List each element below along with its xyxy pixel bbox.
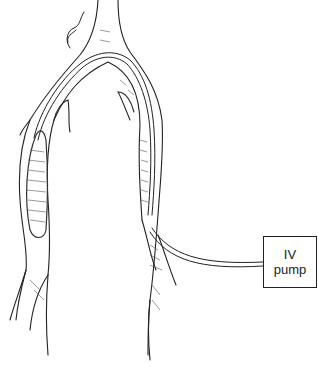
iv-tubing	[152, 228, 263, 263]
bifurcation-crotch	[54, 62, 142, 220]
suture-mark	[67, 12, 84, 48]
iv-pump-box: IV pump	[263, 236, 317, 288]
aorta-right-wall	[118, 0, 163, 355]
iv-pump-label-line2: pump	[274, 262, 307, 277]
iv-pump-label-line1: IV	[284, 247, 296, 262]
clot	[27, 131, 48, 238]
vessel-diagram	[0, 0, 318, 368]
